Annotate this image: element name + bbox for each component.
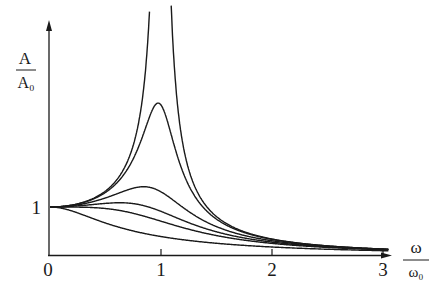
- y-ticks: 1: [32, 197, 42, 218]
- x-label-denominator: ω₀: [408, 264, 423, 280]
- chart-canvas: 0123 1 A A₀ ω ω₀: [0, 0, 442, 291]
- x-tick-label: 0: [43, 259, 53, 280]
- resonance-curves: [50, 6, 388, 251]
- resonance-curve-5: [50, 207, 388, 251]
- resonance-chart: 0123 1 A A₀ ω ω₀: [0, 0, 442, 291]
- x-ticks: 0123: [43, 249, 388, 280]
- resonance-curve-0: [50, 6, 388, 250]
- y-label-denominator: A₀: [17, 74, 34, 91]
- y-tick-label: 1: [32, 197, 42, 218]
- resonance-curve-3: [50, 203, 388, 250]
- x-label-numerator: ω: [410, 238, 421, 257]
- y-label-numerator: A: [19, 49, 32, 68]
- x-tick-label: 1: [156, 259, 166, 280]
- x-tick-label: 3: [378, 259, 388, 280]
- y-axis-label: A A₀: [16, 49, 36, 91]
- x-tick-label: 2: [267, 259, 277, 280]
- x-axis-label: ω ω₀: [403, 238, 429, 280]
- y-axis-arrow-icon: [46, 20, 52, 31]
